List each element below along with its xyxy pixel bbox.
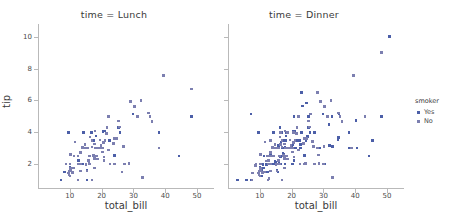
data-point [268,163,271,166]
data-point [296,126,299,129]
data-point [380,51,383,54]
data-point [326,115,329,118]
data-point [328,123,331,126]
y-tick-label-2: 2 [10,160,32,168]
data-point [312,145,315,148]
data-point [364,115,367,118]
data-point [305,102,308,105]
data-point [86,179,89,182]
data-point [356,147,359,150]
data-point [260,163,263,166]
data-point [267,179,270,182]
data-point [81,146,84,149]
x-axis-spine-dinner [228,188,404,189]
data-point [317,154,320,157]
x-axis-spine-lunch [38,188,214,189]
x-tick-label-10: 10 [58,192,82,200]
legend: smoker YesNo [415,97,457,126]
data-point [113,137,116,140]
plot-area-lunch [38,24,213,188]
data-point [331,145,334,148]
data-point [79,170,82,173]
y-tick-4 [224,132,228,133]
data-point [282,154,285,157]
data-point [77,163,80,166]
data-point [293,159,296,162]
data-point [103,156,106,159]
data-point [259,153,262,156]
data-point [309,113,312,116]
data-point [279,126,282,129]
data-point [86,170,89,173]
data-point [158,147,161,150]
data-point [368,155,371,158]
data-point [91,146,94,149]
data-point [96,147,99,150]
data-point [323,145,326,148]
legend-entry-no[interactable]: No [415,117,457,125]
chart-canvas: time = Lunch tip total_bill 102030405024… [0,0,457,221]
data-point [316,91,319,94]
data-point [272,131,275,134]
data-point [263,155,266,158]
data-point [102,147,105,150]
legend-swatch-icon [417,120,420,123]
data-point [129,100,132,103]
legend-swatch-icon [417,111,420,114]
y-tick-6 [34,100,38,101]
data-point [304,162,307,165]
x-tick-label-40: 40 [343,192,367,200]
data-point [77,159,80,162]
data-point [106,126,109,129]
data-point [147,112,150,115]
data-point [309,131,312,134]
data-point [279,143,282,146]
data-point [251,179,254,182]
data-point [74,141,77,144]
data-point [99,139,102,142]
data-point [71,171,74,174]
y-tick-2 [34,164,38,165]
data-point [298,139,301,142]
data-point [133,105,136,108]
data-point [103,159,106,162]
data-point [91,179,94,182]
data-point [269,170,272,173]
data-point [286,158,289,161]
x-axis-label-lunch: total_bill [38,200,214,211]
data-point [86,147,89,150]
data-point [313,163,316,166]
y-tick-label-10: 10 [10,33,32,41]
data-point [63,171,66,174]
data-point [289,139,292,142]
data-point [286,131,289,134]
y-tick-10 [34,37,38,38]
data-point [292,147,295,150]
data-point [91,139,94,142]
data-point [105,132,108,135]
facet-title-dinner: time = Dinner [190,9,418,20]
data-point [118,126,121,129]
data-point [303,154,306,157]
data-point [88,155,91,158]
data-point [322,163,325,166]
data-point [307,120,310,123]
data-point [337,136,340,139]
data-point [158,131,161,134]
data-point [279,155,282,158]
x-tick-label-20: 20 [280,192,304,200]
x-tick-label-40: 40 [153,192,177,200]
data-point [88,159,91,162]
data-point [331,176,334,179]
y-tick-2 [224,164,228,165]
data-point [276,147,279,150]
data-point [77,179,80,182]
y-tick-10 [224,37,228,38]
data-point [281,179,284,182]
data-point [266,155,269,158]
data-point [257,131,260,134]
legend-label: Yes [424,108,435,116]
data-point [274,143,277,146]
data-point [350,147,353,150]
legend-entry-yes[interactable]: Yes [415,108,457,116]
